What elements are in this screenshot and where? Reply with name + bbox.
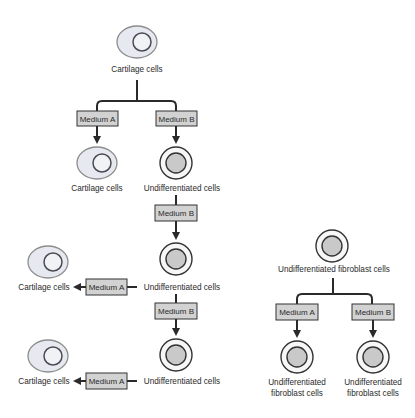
cartilage-cell-row4 xyxy=(28,340,68,372)
undifferentiated-cell-row4 xyxy=(160,339,192,371)
branch-connector-left xyxy=(97,80,176,112)
diagram-canvas: Cartilage cells Medium A Medium B Cartil… xyxy=(0,0,415,418)
svg-text:Medium B: Medium B xyxy=(158,115,194,124)
medium-b-box-fibroblast: Medium B xyxy=(352,304,394,320)
undifferentiated-cell-row3 xyxy=(160,243,192,275)
medium-b-box-branch: Medium B xyxy=(156,111,197,126)
cartilage-cells-row2-label: Cartilage cells xyxy=(71,184,122,193)
undifferentiated-cell-row2 xyxy=(160,147,192,179)
medium-a-box-row3: Medium A xyxy=(86,279,127,295)
svg-text:Medium A: Medium A xyxy=(89,377,125,386)
cartilage-cells-row4-label: Cartilage cells xyxy=(18,377,69,386)
svg-text:Medium A: Medium A xyxy=(80,115,116,124)
svg-text:Medium A: Medium A xyxy=(89,283,125,292)
svg-text:Medium B: Medium B xyxy=(355,308,391,317)
undifferentiated-cells-row3-label: Undifferentiated cells xyxy=(144,283,220,292)
undifferentiated-cells-row4-label: Undifferentiated cells xyxy=(144,377,220,386)
fibroblast-cell-result-a xyxy=(281,341,313,373)
svg-text:Medium B: Medium B xyxy=(158,307,194,316)
fibroblast-cell-result-b xyxy=(357,341,389,373)
fibroblast-result-b-label-line2: fibroblast cells xyxy=(347,389,399,398)
svg-text:Medium B: Medium B xyxy=(158,209,194,218)
cartilage-cells-top-label: Cartilage cells xyxy=(111,65,162,74)
cartilage-cells-row3-label: Cartilage cells xyxy=(18,283,69,292)
medium-b-box-step2: Medium B xyxy=(155,205,197,221)
medium-b-box-step3: Medium B xyxy=(155,303,197,319)
medium-a-box-row4: Medium A xyxy=(86,373,127,389)
undifferentiated-cells-row2-label: Undifferentiated cells xyxy=(144,184,220,193)
cartilage-cell-row2 xyxy=(77,147,117,179)
fibroblast-top-label: Undifferentiated fibroblast cells xyxy=(278,265,390,274)
fibroblast-cell-top xyxy=(316,230,348,262)
medium-a-box-fibroblast: Medium A xyxy=(276,304,318,320)
cartilage-cell-row3 xyxy=(28,246,68,278)
branch-connector-right xyxy=(297,278,372,305)
fibroblast-result-a-label-line1: Undifferentiated xyxy=(268,378,326,387)
medium-a-box-branch: Medium A xyxy=(77,111,118,126)
cartilage-cell-top xyxy=(117,26,157,58)
fibroblast-result-a-label-line2: fibroblast cells xyxy=(271,389,323,398)
svg-text:Medium A: Medium A xyxy=(279,308,315,317)
fibroblast-result-b-label-line1: Undifferentiated xyxy=(344,378,402,387)
